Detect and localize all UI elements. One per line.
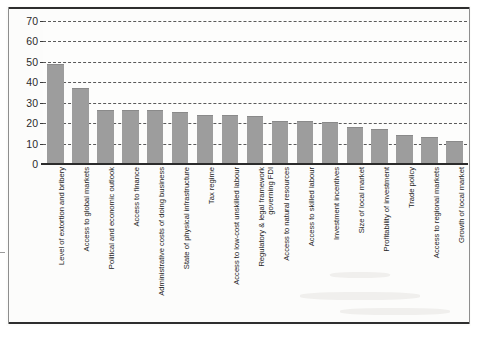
- x-axis-category-label: Level of extortion and bribery: [58, 167, 67, 312]
- page-frame-right-border: [469, 7, 470, 324]
- bar: [446, 141, 462, 164]
- x-axis-category-label: Access to skilled labour: [308, 167, 317, 312]
- x-axis-category-label: Profitability of investment: [383, 167, 392, 312]
- y-axis-label-0: 0: [18, 159, 38, 170]
- y-axis-tick-mark-20: [40, 123, 43, 124]
- y-axis-label-70: 70: [18, 16, 38, 27]
- bar: [97, 110, 113, 164]
- page-frame-top-border: [8, 7, 470, 9]
- bar: [172, 112, 188, 164]
- x-axis-category-label: Regulatory & legal framework governing F…: [258, 167, 276, 312]
- x-axis-category-label: Trade policy: [408, 167, 417, 312]
- chart-page: 010203040506070 Level of extortion and b…: [0, 0, 477, 340]
- y-axis-label-20: 20: [18, 118, 38, 129]
- x-axis-category-labels: Level of extortion and briberyAccess to …: [43, 167, 467, 317]
- bar: [47, 64, 63, 164]
- bar: [371, 129, 387, 164]
- bar: [197, 115, 213, 164]
- y-axis-tick-mark-10: [40, 144, 43, 145]
- y-axis-label-40: 40: [18, 77, 38, 88]
- x-axis-category-label: Growth of local market: [458, 167, 467, 312]
- y-axis-tick-labels: 010203040506070: [17, 0, 38, 340]
- bar: [347, 127, 363, 164]
- x-axis-category-label: Access to finance: [133, 167, 142, 312]
- y-axis-label-60: 60: [18, 36, 38, 47]
- y-axis-tick-mark-30: [40, 103, 43, 104]
- bar: [222, 115, 238, 164]
- x-axis-category-label: State of physical infrastructure: [183, 167, 192, 312]
- x-axis-category-label: Access to regional markets: [433, 167, 442, 312]
- x-axis-category-label: Size of local market: [358, 167, 367, 312]
- bar: [421, 137, 437, 164]
- y-axis-label-50: 50: [18, 57, 38, 68]
- x-axis-category-label: Administrative costs of doing business: [158, 167, 167, 312]
- bar: [72, 88, 88, 164]
- y-axis-label-10: 10: [18, 139, 38, 150]
- x-axis-category-label: Access to global markets: [83, 167, 92, 312]
- page-edge-tick-mark: [0, 252, 5, 253]
- page-frame-bottom-border: [8, 322, 470, 324]
- x-axis-line: [41, 163, 468, 165]
- x-axis-category-label: Political and economic outlook: [108, 167, 117, 312]
- bar: [322, 122, 338, 164]
- y-axis-tick-mark-60: [40, 41, 43, 42]
- bar: [247, 116, 263, 164]
- bar-series: [43, 21, 467, 164]
- bar: [122, 110, 138, 164]
- y-axis-tick-mark-50: [40, 62, 43, 63]
- x-axis-category-label: Tax regime: [208, 167, 217, 312]
- y-axis-tick-mark-40: [40, 82, 43, 83]
- bar: [147, 110, 163, 164]
- bar: [297, 121, 313, 164]
- y-axis-tick-mark-70: [40, 21, 43, 22]
- x-axis-category-label: Access to natural resources: [283, 167, 292, 312]
- bar: [396, 135, 412, 164]
- page-frame-left-border: [8, 7, 9, 324]
- x-axis-category-label: Access to low-cost unskilled labour: [233, 167, 242, 312]
- y-axis-label-30: 30: [18, 98, 38, 109]
- x-axis-category-label: Investment incentives: [333, 167, 342, 312]
- bar: [272, 121, 288, 164]
